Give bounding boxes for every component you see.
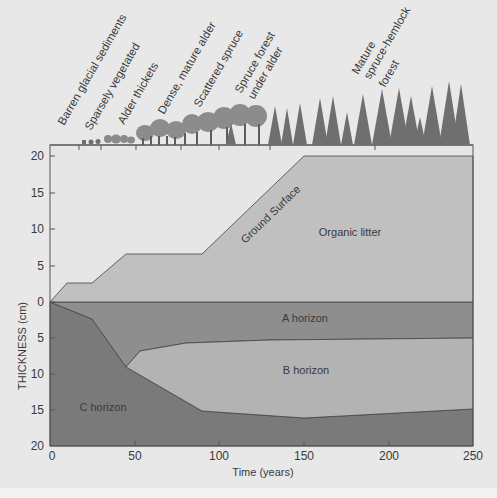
- c-horizon-label: C horizon: [79, 401, 126, 413]
- x-tick-200: 200: [379, 449, 399, 463]
- y-tick-10: 10: [31, 222, 45, 236]
- organic-litter-label: Organic litter: [319, 226, 382, 238]
- y-tick-20: 20: [31, 149, 45, 163]
- x-tick-50: 50: [128, 449, 142, 463]
- y-tick-5: 5: [37, 259, 44, 273]
- y-tick-0: 0: [37, 295, 44, 309]
- x-tick-150: 150: [294, 449, 314, 463]
- soil-development-diagram: 20 15 10 5 0 5 10 15 20 0 50 100 150 200…: [0, 0, 497, 498]
- y-tick-neg5: 5: [37, 331, 44, 345]
- b-horizon-label: B horizon: [283, 364, 329, 376]
- y-tick-neg20: 20: [31, 439, 45, 453]
- y-tick-neg15: 15: [31, 403, 45, 417]
- stage-label-sparse: Sparsely vegetated: [82, 41, 142, 132]
- x-axis-title: Time (years): [232, 466, 293, 478]
- x-tick-250: 250: [463, 449, 483, 463]
- a-horizon-label: A horizon: [282, 312, 328, 324]
- shrub-icons: [82, 139, 101, 145]
- y-tick-neg10: 10: [31, 367, 45, 381]
- stage-label-dense-alder: Dense, mature alder: [155, 20, 218, 116]
- x-tick-100: 100: [209, 449, 229, 463]
- y-axis-title: THICKNESS (cm): [16, 302, 28, 390]
- footer-strip: [0, 488, 497, 498]
- x-tick-0: 0: [49, 449, 56, 463]
- alder-thicket-icons: [104, 135, 135, 144]
- y-tick-15: 15: [31, 186, 45, 200]
